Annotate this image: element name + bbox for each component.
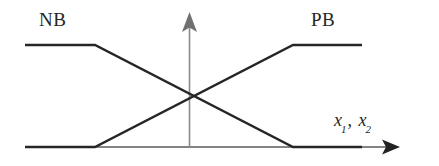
nb-set-label: NB [39,10,66,29]
x-axis-label-sub2: 2 [366,123,372,135]
x-axis-label-separator: , [348,110,355,130]
x-axis-label-sub1: 1 [341,123,347,135]
pb-membership-curve [25,45,362,147]
x-axis-label: x1, x2 [334,111,372,133]
pb-set-label: PB [311,10,335,29]
fuzzy-membership-figure: NB PB x1, x2 [0,0,439,166]
